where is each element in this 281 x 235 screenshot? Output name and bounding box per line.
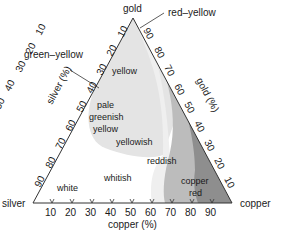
red-yellow-label: red–yellow bbox=[168, 7, 217, 18]
vertex-silver: silver bbox=[2, 198, 26, 209]
svg-text:50: 50 bbox=[0, 96, 7, 111]
svg-text:white: white bbox=[56, 183, 78, 193]
silver-axis-label: silver (%) bbox=[44, 64, 73, 106]
svg-text:10: 10 bbox=[33, 22, 48, 37]
svg-text:50: 50 bbox=[125, 207, 137, 218]
svg-text:pale: pale bbox=[97, 100, 114, 110]
svg-text:10: 10 bbox=[222, 175, 237, 190]
svg-text:40: 40 bbox=[192, 119, 207, 134]
ternary-diagram: 10 20 30 40 50 60 70 80 90 10 20 30 40 5… bbox=[0, 0, 281, 235]
green-yellow-label: green–yellow bbox=[24, 49, 84, 60]
svg-text:70: 70 bbox=[165, 207, 177, 218]
svg-text:reddish: reddish bbox=[147, 156, 177, 166]
svg-text:20: 20 bbox=[65, 207, 77, 218]
svg-text:10: 10 bbox=[45, 207, 57, 218]
svg-text:50: 50 bbox=[182, 100, 197, 115]
svg-text:yellow: yellow bbox=[93, 124, 119, 134]
svg-text:red: red bbox=[189, 188, 202, 198]
svg-text:copper: copper bbox=[181, 176, 209, 186]
left-tick-labels: 10 20 30 40 50 bbox=[0, 22, 48, 111]
vertex-gold: gold bbox=[123, 3, 142, 14]
svg-text:60: 60 bbox=[145, 207, 157, 218]
svg-text:20: 20 bbox=[212, 156, 227, 171]
svg-text:40: 40 bbox=[2, 78, 17, 93]
svg-text:80: 80 bbox=[185, 207, 197, 218]
svg-text:yellow: yellow bbox=[112, 66, 138, 76]
svg-text:greenish: greenish bbox=[89, 112, 124, 122]
gold-axis-label: gold (%) bbox=[194, 76, 221, 114]
svg-text:whitish: whitish bbox=[103, 173, 132, 183]
svg-text:40: 40 bbox=[105, 207, 117, 218]
svg-text:30: 30 bbox=[85, 207, 97, 218]
svg-text:yellowish: yellowish bbox=[116, 137, 153, 147]
vertex-copper: copper bbox=[240, 198, 271, 209]
regions bbox=[33, 18, 240, 203]
svg-text:90: 90 bbox=[205, 207, 217, 218]
bottom-tick-labels: 10 20 30 40 50 60 70 80 90 bbox=[45, 207, 217, 218]
copper-axis-label: copper (%) bbox=[108, 219, 157, 230]
svg-text:30: 30 bbox=[13, 59, 28, 74]
